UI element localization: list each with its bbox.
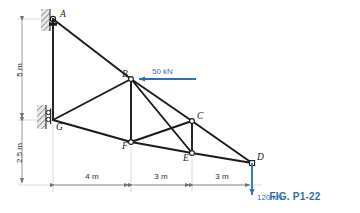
wall-hatch-top: [41, 9, 50, 31]
wall-hatch-bottom: [37, 105, 46, 129]
dimension-3m-second: 3 m: [194, 172, 250, 185]
joint-label-E: E: [182, 153, 189, 163]
member-G-F: [53, 120, 131, 142]
joint-node-F: [129, 140, 134, 145]
roller-support-G: [37, 105, 51, 129]
truss-diagram: 5 m 2.5 m 4 m 3 m 3 m: [0, 0, 360, 213]
dimension-2-5m-label: 2.5 m: [15, 143, 24, 163]
roller-icon-lower: [46, 117, 50, 121]
dimension-4m: 4 m: [55, 172, 129, 185]
joint-label-D: D: [256, 152, 264, 162]
joint-label-G: G: [56, 122, 63, 132]
joint-label-B: B: [122, 69, 128, 79]
dimension-4m-label: 4 m: [85, 172, 99, 181]
figure-caption: FIG. P1-22: [270, 191, 321, 202]
dimension-2-5m: 2.5 m: [15, 122, 24, 183]
joint-labels: A B C D E F G: [56, 9, 264, 163]
joint-node-E: [190, 151, 195, 156]
member-F-C: [131, 121, 192, 142]
joint-label-F: F: [121, 141, 128, 151]
joint-label-A: A: [59, 9, 66, 19]
dimension-5m: 5 m: [15, 21, 24, 118]
figure-container: 5 m 2.5 m 4 m 3 m 3 m: [0, 0, 360, 213]
member-G-B: [53, 79, 131, 120]
extension-lines: [18, 19, 262, 192]
roller-icon-upper: [46, 110, 50, 114]
member-B-E: [131, 79, 192, 153]
load-50kN-label: 50 kN: [152, 67, 173, 76]
truss-members: [53, 19, 252, 163]
dimension-3m-first: 3 m: [133, 172, 190, 185]
member-F-E: [131, 142, 192, 153]
joint-node-C: [190, 119, 195, 124]
joint-node-B: [129, 77, 134, 82]
dimension-3m-second-label: 3 m: [215, 172, 229, 181]
dimension-3m-first-label: 3 m: [154, 172, 168, 181]
member-C-D: [192, 121, 252, 163]
member-A-B: [53, 19, 131, 79]
dimension-5m-label: 5 m: [15, 63, 24, 77]
support-layer: [37, 9, 57, 129]
load-50kN: 50 kN: [139, 67, 196, 79]
member-E-D: [192, 153, 252, 163]
joint-label-C: C: [197, 111, 204, 121]
